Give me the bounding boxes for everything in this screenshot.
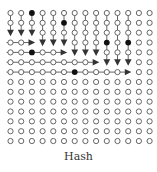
right-arrow-icon <box>61 49 68 55</box>
open-node <box>104 79 109 84</box>
open-node <box>94 30 99 35</box>
open-node <box>136 70 141 75</box>
open-node <box>51 129 56 134</box>
open-node <box>19 10 24 15</box>
open-node <box>115 89 120 94</box>
open-node <box>115 10 120 15</box>
open-node <box>8 79 13 84</box>
open-node <box>115 50 120 55</box>
open-node <box>115 70 120 75</box>
open-node <box>94 109 99 114</box>
open-node <box>19 89 24 94</box>
open-node <box>104 10 109 15</box>
open-node <box>51 138 56 143</box>
open-node <box>83 99 88 104</box>
open-node <box>136 60 141 65</box>
open-node <box>126 89 131 94</box>
open-node <box>51 50 56 55</box>
down-arrow-icon <box>18 30 25 37</box>
open-node <box>51 10 56 15</box>
open-node <box>72 79 77 84</box>
open-node <box>8 89 13 94</box>
open-node <box>72 99 77 104</box>
open-node <box>147 10 152 15</box>
open-node <box>94 20 99 25</box>
open-node <box>136 99 141 104</box>
open-node <box>51 119 56 124</box>
open-node <box>40 99 45 104</box>
open-node <box>29 60 34 65</box>
open-node <box>8 119 13 124</box>
filled-node <box>104 40 110 46</box>
open-node <box>8 70 13 75</box>
open-node <box>136 20 141 25</box>
open-node <box>126 109 131 114</box>
filled-node <box>29 10 35 16</box>
open-node <box>29 119 34 124</box>
open-node <box>104 109 109 114</box>
open-node <box>104 119 109 124</box>
open-node <box>19 138 24 143</box>
open-node <box>83 20 88 25</box>
open-node <box>40 89 45 94</box>
open-node <box>115 109 120 114</box>
open-node <box>115 79 120 84</box>
open-node <box>51 99 56 104</box>
open-node <box>61 30 66 35</box>
filled-node <box>125 40 131 46</box>
open-node <box>104 70 109 75</box>
open-node <box>104 138 109 143</box>
down-arrow-icon <box>114 59 121 66</box>
open-node <box>83 89 88 94</box>
open-node <box>51 70 56 75</box>
open-node <box>147 70 152 75</box>
down-arrow-icon <box>61 40 68 47</box>
open-node <box>72 60 77 65</box>
open-node <box>51 60 56 65</box>
open-node <box>94 10 99 15</box>
open-node <box>126 10 131 15</box>
open-node <box>72 129 77 134</box>
open-node <box>83 40 88 45</box>
open-node <box>83 10 88 15</box>
filled-node <box>61 20 67 26</box>
open-node <box>51 79 56 84</box>
down-arrow-icon <box>93 49 100 56</box>
open-node <box>94 70 99 75</box>
down-arrow-icon <box>39 40 46 47</box>
open-node <box>136 50 141 55</box>
open-node <box>94 129 99 134</box>
open-node <box>83 70 88 75</box>
node-grid <box>0 0 157 172</box>
open-node <box>40 70 45 75</box>
right-arrow-icon <box>93 59 100 65</box>
open-node <box>72 40 77 45</box>
open-node <box>51 20 56 25</box>
open-node <box>19 129 24 134</box>
open-node <box>29 138 34 143</box>
open-node <box>19 20 24 25</box>
open-node <box>40 50 45 55</box>
open-node <box>94 99 99 104</box>
down-arrow-icon <box>103 59 110 66</box>
open-node <box>19 70 24 75</box>
open-node <box>136 10 141 15</box>
open-node <box>136 109 141 114</box>
open-node <box>8 10 13 15</box>
open-node <box>19 50 24 55</box>
open-node <box>72 119 77 124</box>
open-node <box>147 109 152 114</box>
down-arrow-icon <box>125 59 132 66</box>
open-node <box>29 109 34 114</box>
open-node <box>147 119 152 124</box>
open-node <box>72 138 77 143</box>
open-node <box>94 138 99 143</box>
open-node <box>40 30 45 35</box>
hash-scan-diagram: Hash <box>0 0 157 172</box>
open-node <box>8 60 13 65</box>
open-node <box>40 60 45 65</box>
open-node <box>8 20 13 25</box>
right-arrow-icon <box>29 39 36 45</box>
open-node <box>104 99 109 104</box>
open-node <box>29 79 34 84</box>
